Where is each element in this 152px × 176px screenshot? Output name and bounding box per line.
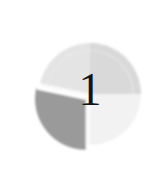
pie-chart-figure: 1 bbox=[0, 0, 152, 176]
pie-chart-canvas bbox=[0, 0, 152, 176]
pie-slice-1-label: 1 bbox=[78, 62, 102, 118]
